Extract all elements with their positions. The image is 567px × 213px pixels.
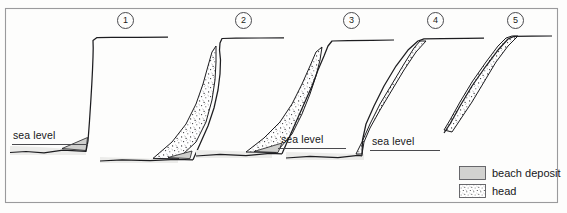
stage-number-5: 5	[507, 12, 524, 29]
page-background	[0, 0, 567, 213]
sea-level-label-1: sea level	[13, 130, 55, 141]
stage-number-3: 3	[343, 12, 360, 29]
diagram-figure: 1 2 3 4 5 sea level sea level sea level …	[0, 0, 567, 213]
stage-number-2: 2	[235, 12, 252, 29]
sea-level-label-3: sea level	[372, 136, 414, 147]
stage-number-4: 4	[427, 12, 444, 29]
legend-swatch-beach-deposit	[460, 167, 486, 180]
sea-level-label-2: sea level	[281, 134, 323, 145]
legend-label-beach-deposit: beach deposit	[492, 167, 561, 179]
cliff-evolution-diagram	[0, 0, 567, 213]
legend-swatch-head	[460, 185, 486, 198]
stage-number-1: 1	[117, 12, 134, 29]
legend-label-head: head	[492, 185, 516, 197]
